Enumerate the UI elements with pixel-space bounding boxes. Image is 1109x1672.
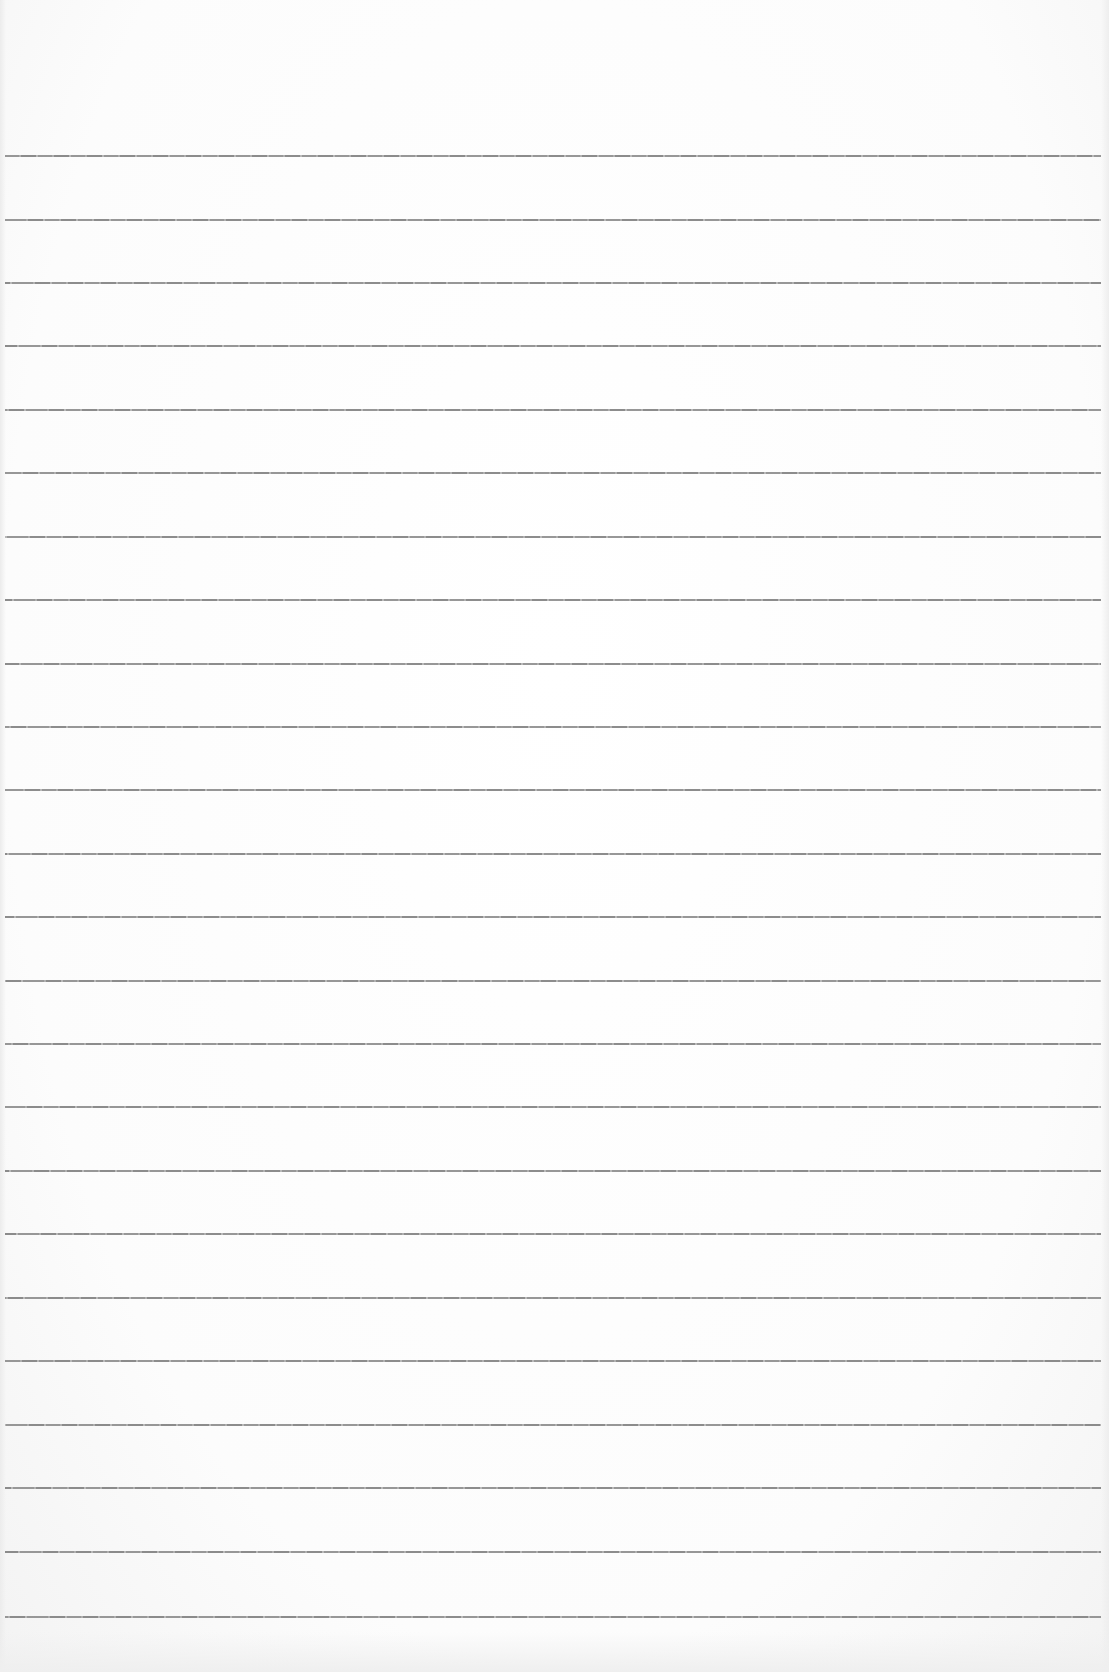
- ruled-paper-sheet: [0, 0, 1109, 1672]
- ruled-line: [5, 1297, 1101, 1299]
- ruled-line: [5, 1616, 1101, 1618]
- ruled-line: [5, 1233, 1101, 1235]
- right-edge-shadow: [1101, 0, 1109, 1672]
- ruled-line: [5, 663, 1101, 665]
- ruled-line: [5, 853, 1101, 855]
- ruled-line: [5, 1424, 1101, 1426]
- ruled-line: [5, 536, 1101, 538]
- ruled-line: [5, 1170, 1101, 1172]
- ruled-line: [5, 409, 1101, 411]
- ruled-line: [5, 472, 1101, 474]
- ruled-line: [5, 155, 1101, 157]
- ruled-line: [5, 726, 1101, 728]
- ruled-line: [5, 916, 1101, 918]
- bottom-edge-shadow: [0, 1632, 1109, 1672]
- ruled-line: [5, 980, 1101, 982]
- ruled-line: [5, 1551, 1101, 1553]
- ruled-line: [5, 219, 1101, 221]
- ruled-line: [5, 1106, 1101, 1108]
- ruled-line: [5, 1360, 1101, 1362]
- left-edge-shadow: [0, 0, 6, 1672]
- ruled-line: [5, 345, 1101, 347]
- ruled-line: [5, 1043, 1101, 1045]
- ruled-line: [5, 1487, 1101, 1489]
- ruled-line: [5, 599, 1101, 601]
- ruled-line: [5, 282, 1101, 284]
- ruled-line: [5, 789, 1101, 791]
